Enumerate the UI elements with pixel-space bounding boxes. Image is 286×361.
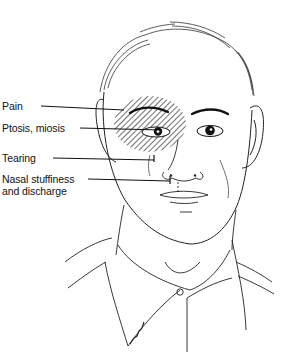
label-ptosis-miosis: Ptosis, miosis: [2, 122, 65, 134]
pain-area: [114, 96, 186, 152]
face-illustration: Pain Ptosis, miosis Tearing Nasal stuffi…: [0, 0, 286, 361]
mouth: [160, 191, 208, 212]
neck-collar: [65, 205, 274, 352]
label-pain: Pain: [2, 100, 23, 112]
hair: [100, 22, 254, 96]
label-nasal-line1: Nasal stuffiness: [2, 173, 74, 185]
label-nasal-line2: and discharge: [2, 185, 67, 197]
label-tearing: Tearing: [2, 152, 36, 164]
